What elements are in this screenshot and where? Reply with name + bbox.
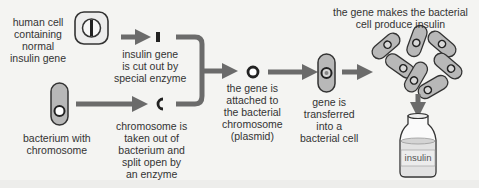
human-cell-icon <box>75 12 108 44</box>
insulin-gene-cut-label: insulin gene is cut out by special enzym… <box>114 48 186 84</box>
label-line: chromosome <box>222 118 283 130</box>
human-cell-label: human cell containing normal insulin gen… <box>10 16 66 64</box>
label-line: attached to <box>222 94 283 106</box>
open-chromosome-icon <box>158 99 163 109</box>
chromosome-split-label: chromosome is taken out of bacterium and… <box>116 120 187 180</box>
transformed-bacterium-icon <box>318 54 335 92</box>
label-line: bacterial cell <box>300 132 358 144</box>
label-line: insulin gene <box>10 52 66 64</box>
label-line: special enzyme <box>114 72 186 84</box>
bacterium-icon <box>51 83 68 125</box>
label-line: bacterium with <box>23 132 91 144</box>
bottom-margin <box>0 180 479 188</box>
bacterium-label: bacterium with chromosome <box>23 132 91 156</box>
plasmid-icon <box>248 67 258 77</box>
produce-insulin-label: the gene makes the bacterial cell produc… <box>333 6 468 30</box>
label-line: gene is <box>300 96 358 108</box>
label-line: containing <box>10 28 66 40</box>
label-line: taken out of <box>116 132 187 144</box>
label-line: is cut out by <box>114 60 186 72</box>
label-line: bacterium and <box>116 144 187 156</box>
label-line: the bacterial <box>222 106 283 118</box>
bottle-label: insulin <box>402 152 434 164</box>
label-line: the gene is <box>222 82 283 94</box>
label-line: human cell <box>10 16 66 28</box>
label-line: transferred <box>300 108 358 120</box>
gene-attached-label: the gene is attached to the bacterial ch… <box>222 82 283 142</box>
label-line: chromosome <box>23 144 91 156</box>
label-line: an enzyme <box>116 168 187 180</box>
label-line: normal <box>10 40 66 52</box>
label-line: cell produce insulin <box>333 18 468 30</box>
bacteria-colony-icon <box>369 24 465 101</box>
label-line: into a <box>300 120 358 132</box>
label-line: (plasmid) <box>222 130 283 142</box>
label-line: chromosome is <box>116 120 187 132</box>
gene-transferred-label: gene is transferred into a bacterial cel… <box>300 96 358 144</box>
insulin-bottle-icon <box>400 114 436 178</box>
label-line: split open by <box>116 156 187 168</box>
label-line: insulin gene <box>114 48 186 60</box>
gene-fragment-icon <box>156 32 160 42</box>
label-line: the gene makes the bacterial <box>333 6 468 18</box>
